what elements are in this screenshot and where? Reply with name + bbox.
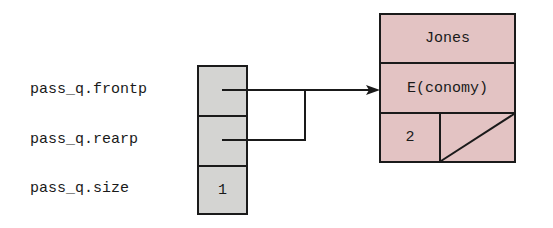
- node-count: 2: [405, 129, 414, 146]
- label-size: pass_q.size: [30, 180, 129, 197]
- frontp-cell: [197, 65, 248, 117]
- node-class: E(conomy): [407, 80, 488, 97]
- node-class-cell: E(conomy): [379, 62, 516, 114]
- node-next-cell: [439, 112, 516, 163]
- node-count-cell: 2: [379, 112, 441, 163]
- label-rearp: pass_q.rearp: [30, 131, 138, 148]
- rearp-cell: [197, 115, 248, 167]
- node-name: Jones: [425, 30, 470, 47]
- size-value: 1: [218, 182, 227, 199]
- arrowhead-icon: [366, 85, 380, 95]
- node-name-cell: Jones: [379, 13, 516, 64]
- label-frontp: pass_q.frontp: [30, 81, 147, 98]
- size-cell: 1: [197, 165, 248, 215]
